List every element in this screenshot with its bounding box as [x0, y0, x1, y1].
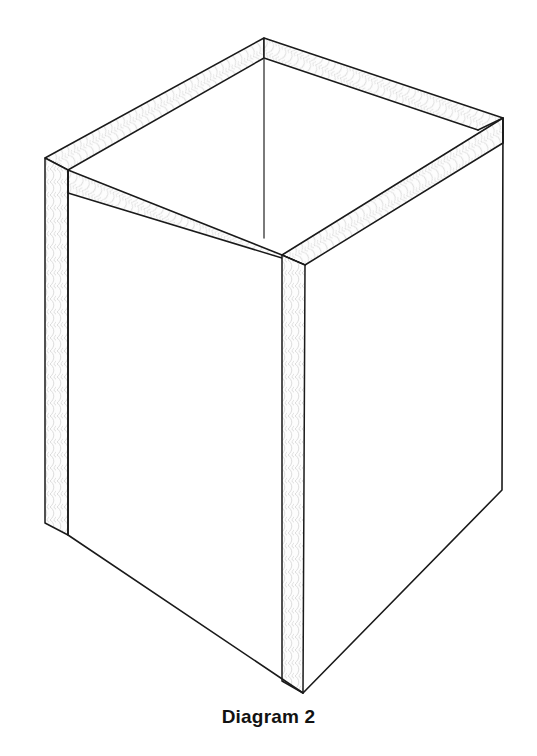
left-vertical-edge-strip-flutes: [45, 158, 68, 535]
diagram-page: Diagram 2: [0, 0, 537, 756]
figure-caption: Diagram 2: [0, 706, 537, 728]
box-diagram-figure: [0, 0, 537, 756]
front-vertical-edge-strip-flutes: [282, 255, 305, 693]
